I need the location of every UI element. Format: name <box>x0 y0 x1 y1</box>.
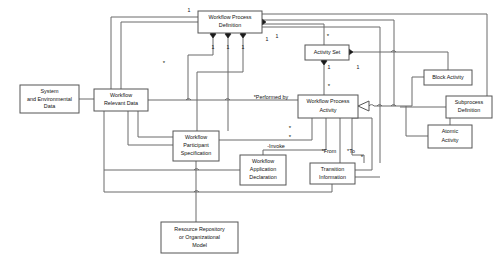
link-wpd-leg1 <box>188 37 213 100</box>
multiplicity-label: 1 <box>276 33 279 39</box>
entity-transition-information[interactable]: Transition Information <box>310 163 355 184</box>
entity-label-line: Atomic <box>442 128 459 134</box>
entity-label-line: Activity <box>319 107 336 113</box>
link-blockactivity-to-generalization <box>374 77 424 106</box>
entity-label-line: Definition <box>458 107 480 113</box>
entity-workflow-participant-specification[interactable]: Workflow Participant Specification <box>173 131 219 161</box>
entity-resource-repository-or-organizational-model[interactable]: Resource Repository or Organizational Mo… <box>161 222 238 253</box>
multiplicity-label: 1 <box>188 7 191 13</box>
entity-label-line: Model <box>192 242 207 248</box>
entity-label-line: Definition <box>219 22 241 28</box>
multiplicity-label: 1 <box>242 44 245 50</box>
multiplicity-label: * <box>289 125 292 131</box>
link-atomicactivity-to-generalization <box>406 106 428 136</box>
multiplicity-label: * <box>328 83 331 89</box>
entity-label-line: Specification <box>181 150 212 156</box>
entity-activity-set[interactable]: Activity Set <box>305 45 349 60</box>
multiplicity-label: * <box>289 134 292 140</box>
role-label-to: *To <box>347 148 355 154</box>
entity-label-line: or Organizational <box>179 234 220 240</box>
entity-workflow-application-declaration[interactable]: Workflow Application Declaration <box>240 155 286 185</box>
entity-label-line: Activity <box>441 137 458 143</box>
multiplicity-label: * <box>163 60 166 66</box>
entity-label-line: Declaration <box>249 174 276 180</box>
entity-label-line: Workflow <box>110 92 132 98</box>
entity-label-line: Subprocess <box>455 99 484 105</box>
multiplicity-label: * <box>361 154 364 160</box>
entity-label-line: Block Activity <box>432 74 464 80</box>
entity-atomic-activity[interactable]: Atomic Activity <box>428 125 472 148</box>
entity-workflow-process-definition[interactable]: Workflow Process Definition <box>198 11 262 33</box>
link-wrd-to-wpd <box>121 22 198 89</box>
entity-label-line: Relevant Data <box>104 100 138 106</box>
multiplicity-label: 1 <box>266 36 269 42</box>
entity-label-line: Participant <box>183 142 209 148</box>
multiplicity-label: 1 <box>212 44 215 50</box>
role-label-performed-by: *Performed by <box>254 94 289 100</box>
role-label-invoke: -Invoke <box>267 143 285 149</box>
uml-class-diagram: System and Environmental Data Workflow R… <box>0 0 504 264</box>
entity-block-activity[interactable]: Block Activity <box>424 70 472 85</box>
multiplicity-label: 1 <box>328 64 331 70</box>
multiplicity-label: * <box>327 33 330 39</box>
link-activityset-to-blockactivity <box>349 52 448 70</box>
entity-label-line: Information <box>319 174 346 180</box>
role-label-from: *From <box>322 148 337 154</box>
link-wpd-leg3 <box>197 37 243 131</box>
entity-label-line: Application <box>250 166 276 172</box>
entity-system-and-environmental-data[interactable]: System and Environmental Data <box>20 85 79 113</box>
link-wrd-to-participant-2 <box>138 111 173 137</box>
connector-lines <box>79 14 487 222</box>
multiplicity-label: 1 <box>227 44 230 50</box>
link-wrd-to-participant <box>128 111 173 145</box>
line-hop-5 <box>369 105 374 106</box>
entity-subprocess-definition[interactable]: Subprocess Definition <box>446 96 492 118</box>
entity-label-line: Workflow Process <box>208 14 251 20</box>
link-transition-loop-1 <box>352 118 372 170</box>
entity-label-line: and Environmental <box>27 96 72 102</box>
entity-workflow-relevant-data[interactable]: Workflow Relevant Data <box>94 89 148 111</box>
entity-label-line: Transition <box>321 166 344 172</box>
link-wpa-to-application <box>263 118 326 155</box>
entity-label-line: System <box>41 88 59 94</box>
entity-label-line: Workflow <box>185 134 207 140</box>
entity-label-line: Activity Set <box>314 49 341 55</box>
link-transition-bottom-bus <box>104 184 332 192</box>
entity-label-line: Data <box>44 103 55 109</box>
diagram-canvas: System and Environmental Data Workflow R… <box>0 0 504 264</box>
entity-label-line: Resource Repository <box>174 226 225 232</box>
entity-label-line: Workflow Process <box>306 98 349 104</box>
multiplicity-label: 1 <box>357 64 360 70</box>
generalization-arrow-activity-icon <box>358 101 369 111</box>
entity-label-line: Workflow <box>252 158 274 164</box>
entity-boxes: System and Environmental Data Workflow R… <box>20 11 492 253</box>
entity-workflow-process-activity[interactable]: Workflow Process Activity <box>298 95 358 118</box>
